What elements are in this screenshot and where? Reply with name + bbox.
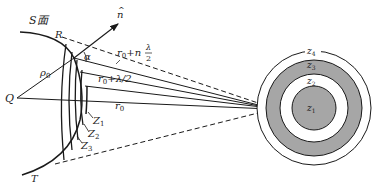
svg-text:2: 2	[146, 54, 151, 63]
svg-text:r0+n: r0+n	[117, 47, 141, 60]
zone-boundary-arc-1	[61, 44, 66, 160]
r0-n-lambda-label: r0+n λ 2	[117, 43, 152, 63]
zone-boundary-arc-2	[69, 52, 72, 150]
svg-text:λ: λ	[145, 43, 151, 52]
normal-vector-arrow	[74, 24, 118, 58]
zone-boundary-arc-5	[86, 86, 87, 114]
zone-label-z2: Z2	[87, 128, 99, 141]
wavefront-s-arc	[20, 32, 82, 175]
concentric-zones-figure: z4 z3 z2 z1	[257, 46, 371, 165]
surface-s-label: S面	[29, 14, 50, 27]
normal-hat-glyph: ^	[118, 5, 125, 14]
point-t-label: T	[31, 173, 39, 184]
r0-n-label-pointer	[116, 60, 120, 64]
zone-label-z1: Z1	[92, 115, 104, 128]
fresnel-zone-diagram: S面 R T Q P n ^ α ρ0 r0 r0+λ/2 r0+n λ 2	[0, 0, 382, 185]
zone-label-z3: Z3	[80, 140, 92, 153]
r0-label: r0	[115, 100, 124, 113]
r0-half-lambda-label: r0+λ/2	[98, 73, 132, 86]
dashed-line-r-p	[62, 37, 270, 107]
point-r-label: R	[54, 29, 63, 40]
wavefront-figure: S面 R T Q P n ^ α ρ0 r0 r0+λ/2 r0+n λ 2	[5, 5, 284, 184]
angle-alpha-label: α	[84, 51, 91, 62]
point-q-label: Q	[5, 92, 14, 105]
